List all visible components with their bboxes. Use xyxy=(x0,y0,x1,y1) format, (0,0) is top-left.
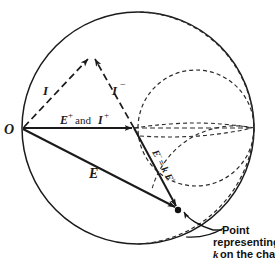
svg-text:and: and xyxy=(75,114,91,126)
label-current-reflected: I − xyxy=(111,79,126,98)
point-k-marker xyxy=(175,207,181,213)
svg-text:E: E xyxy=(59,113,68,127)
label-total-voltage: E xyxy=(88,166,98,181)
label-current-total: I xyxy=(42,83,49,98)
svg-text:representing: representing xyxy=(213,236,275,248)
figure-canvas: O I I − E + and I + E E − = k E + Point xyxy=(0,0,275,261)
svg-text:on the chart: on the chart xyxy=(220,248,275,260)
converging-chord-lower xyxy=(140,128,252,137)
svg-text:+: + xyxy=(68,110,73,120)
svg-text:I: I xyxy=(111,83,118,98)
callout-text: Point representing k on the chart xyxy=(213,224,275,260)
smith-chart-diagram: O I I − E + and I + E E − = k E + Point xyxy=(0,0,275,261)
svg-text:−: − xyxy=(120,79,126,90)
label-origin: O xyxy=(4,122,14,137)
label-forward-wave: E + and I + xyxy=(59,110,109,127)
vector-E xyxy=(23,129,175,207)
svg-text:I: I xyxy=(97,113,104,127)
converging-chord-upper xyxy=(134,123,252,128)
svg-text:Point: Point xyxy=(222,224,250,236)
svg-text:k: k xyxy=(213,248,219,260)
svg-text:+: + xyxy=(104,110,109,120)
